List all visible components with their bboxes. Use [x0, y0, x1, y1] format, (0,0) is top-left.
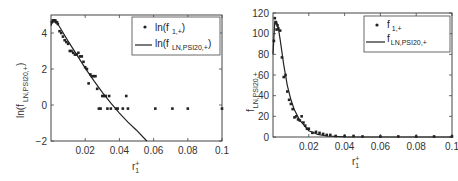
- y-tick-label: 2: [41, 64, 47, 75]
- y-tick-label: 20: [258, 111, 270, 122]
- x-tick-label: 0.04: [110, 145, 130, 156]
- y-tick-label: 0: [41, 100, 47, 111]
- legend-point-icon: [143, 25, 146, 28]
- figure: 0.020.040.060.080.1−2024 ln(f1,+) ln(fLN…: [0, 0, 458, 181]
- left-chart: 0.020.040.060.080.1−2024 ln(f1,+) ln(fLN…: [15, 15, 229, 174]
- x-tick-label: 0.1: [445, 141, 458, 152]
- x-tick-label: 0.02: [75, 145, 95, 156]
- y-tick-label: 120: [252, 8, 269, 19]
- left-legend: ln(f1,+) ln(fLN,PSI20,+): [132, 17, 220, 55]
- x-tick-label: 0.1: [215, 145, 229, 156]
- right-legend: f1,+ fLN,PSI20,+: [364, 16, 450, 52]
- x-tick-label: 0.06: [371, 141, 391, 152]
- x-tick-label: 0.04: [335, 141, 355, 152]
- y-tick-label: 80: [258, 49, 270, 60]
- y-tick-label: 4: [41, 28, 47, 39]
- x-tick-label: 0.08: [406, 141, 426, 152]
- legend-point-icon: [375, 23, 378, 26]
- right-x-axis-label: r1+: [352, 155, 359, 169]
- x-tick-label: 0.02: [299, 141, 319, 152]
- y-tick-label: 100: [252, 28, 269, 39]
- y-tick-label: 60: [258, 70, 270, 81]
- x-tick-label: 0.06: [144, 145, 164, 156]
- right-chart: 0.020.040.060.080.1020406080100120 f1,+ …: [245, 8, 458, 170]
- y-tick-label: 40: [258, 90, 270, 101]
- left-x-axis-label: r1+: [132, 160, 139, 174]
- x-tick-label: 0.08: [178, 145, 198, 156]
- left-y-axis-label: ln(fLN,PSI20,+): [15, 63, 29, 118]
- y-tick-label: −2: [36, 136, 48, 147]
- right-y-axis-label: fLN,PSI20,+: [245, 72, 259, 112]
- y-tick-label: 0: [263, 132, 269, 143]
